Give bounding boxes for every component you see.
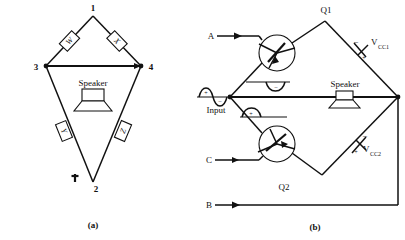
panel-a: W X Y Z Speaker [34,3,154,230]
terminal-b-label: B [206,200,212,210]
transistor-q2-emitter-lead [270,129,277,144]
panel-a-caption: (a) [88,220,99,230]
source-vcc2-plus-sign: + [354,149,358,155]
source-vcc2-subscript: CC2 [370,151,381,157]
waveform-upper-branch [246,82,290,91]
speaker-label-a: Speaker [79,78,108,88]
speaker-cone-b [329,100,360,108]
terminal-b-arrow [232,202,240,209]
speaker-cone-a [74,101,112,111]
terminal-c-arrow [232,157,239,163]
node-2-label: 2 [94,184,99,194]
speaker-label-b: Speaker [331,79,360,89]
wire-left-to-q2 [230,97,262,133]
speaker-body-a [82,89,104,101]
waveform-input-positive-sign: + [204,90,208,96]
terminal-c-to-q2 [259,156,263,160]
source-vcc2-minus-sign: – [362,131,368,140]
source-vcc2-label: V [363,144,370,154]
waveform-lower-sign: + [249,111,253,117]
node-1-label: 1 [91,3,96,13]
source-vcc1-minus-sign: – [353,37,359,46]
node-3-dot [44,64,49,69]
node-3-label: 3 [34,62,39,72]
source-vcc1-label: V [371,37,378,47]
terminal-a-to-q1 [259,36,262,40]
waveform-input [197,88,230,106]
circuit-figure-canvas: W X Y Z Speaker [0,0,405,240]
transistor-q1 [259,35,295,71]
wire-left-to-q1 [230,63,262,97]
figure-container: W X Y Z Speaker [0,0,405,240]
input-label: Input [207,105,226,115]
transistor-q2-label: Q2 [279,182,290,192]
node-4-label: 4 [149,62,154,72]
ground-symbol [72,174,79,182]
transistor-q1-base-lead [259,44,277,53]
panel-b: Q1 Q2 A C B [197,5,400,232]
terminal-a-arrow [234,33,242,40]
terminal-c-label: C [206,155,212,165]
speaker-symbol-a [74,89,112,111]
wire-q2-to-bottom [292,153,322,175]
speaker-symbol-b [329,91,360,108]
panel-b-caption: (b) [310,222,321,232]
waveform-input-negative-sign: – [218,98,223,104]
waveform-upper-sign: – [274,84,279,90]
transistor-q1-label: Q1 [321,5,332,15]
wire-bottom-to-right [322,97,398,175]
wire-q1-to-top [292,21,325,43]
transistor-q2 [258,126,295,162]
source-vcc1-subscript: CC1 [378,44,389,50]
speaker-body-b [336,91,353,100]
terminal-a-label: A [208,31,215,41]
